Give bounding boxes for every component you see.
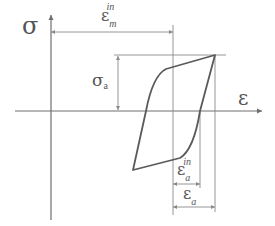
sigma-a-label: σa xyxy=(92,72,108,89)
hysteresis-diagram xyxy=(0,0,275,226)
eps-a-label: εa xyxy=(183,186,196,202)
hysteresis-loop xyxy=(133,55,215,170)
eps-a-in-label: εain xyxy=(177,162,198,178)
eps-m-in-label: εmin xyxy=(101,8,124,24)
epsilon-axis-label: ε xyxy=(238,88,248,108)
sigma-axis-label: σ xyxy=(22,14,38,38)
